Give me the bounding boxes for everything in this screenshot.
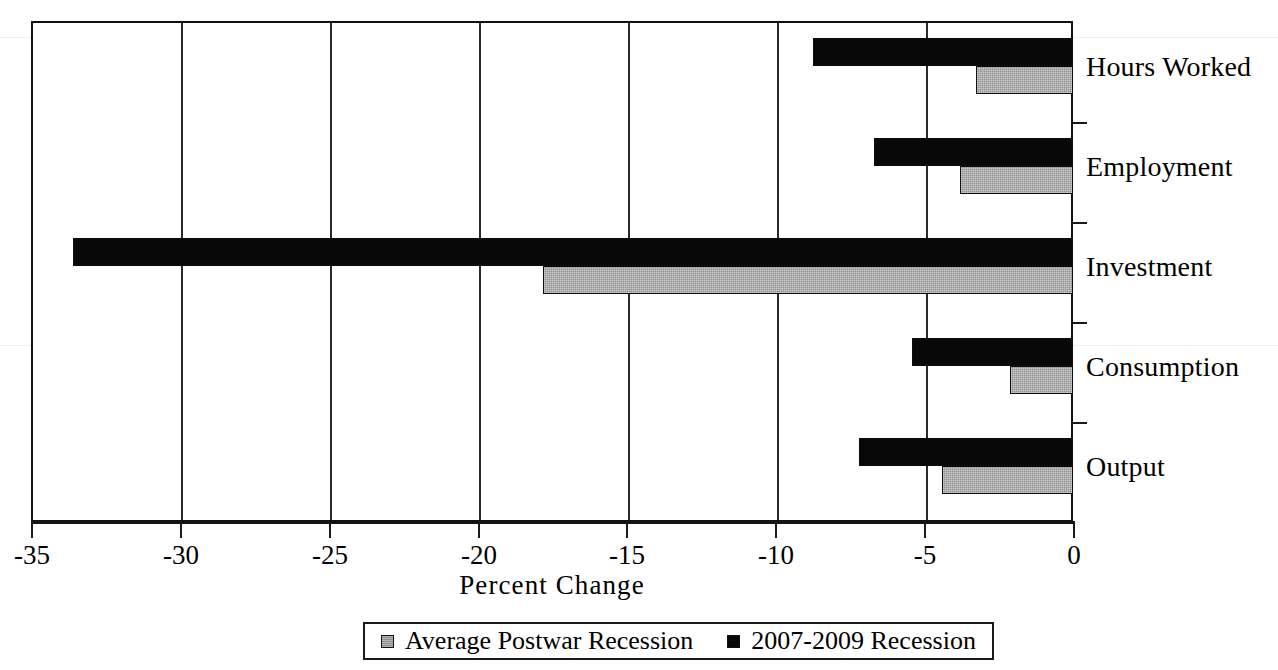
bar-consumption-average-postwar: [1010, 366, 1073, 394]
legend-swatch-gray-icon: [381, 635, 394, 648]
x-tick-label--25: -25: [285, 540, 375, 570]
bar-hours-worked-average-postwar: [976, 66, 1073, 94]
legend-item-2007-2009-recession: 2007-2009 Recession: [727, 627, 976, 655]
x-tick-label--30: -30: [136, 540, 226, 570]
x-tick--10: [775, 522, 777, 538]
bars-layer: [31, 21, 1073, 522]
bar-consumption-2007-2009: [912, 338, 1073, 366]
legend-item-average-postwar-recession: Average Postwar Recession: [381, 627, 693, 655]
x-tick--15: [626, 522, 628, 538]
legend-swatch-black-icon: [727, 635, 740, 648]
x-tick-label-0: 0: [1029, 540, 1119, 570]
x-axis-title: Percent Change: [0, 570, 1104, 601]
x-tick--25: [329, 522, 331, 538]
bar-output-average-postwar: [942, 466, 1073, 494]
legend-label-average-postwar-recession: Average Postwar Recession: [405, 627, 693, 655]
bar-investment-2007-2009: [73, 238, 1073, 266]
x-tick-label--5: -5: [880, 540, 970, 570]
x-tick-label--20: -20: [434, 540, 524, 570]
bar-employment-average-postwar: [960, 166, 1073, 194]
x-tick-label--10: -10: [731, 540, 821, 570]
bar-hours-worked-2007-2009: [813, 38, 1074, 66]
category-tick-consumption: [1073, 422, 1087, 424]
category-tick-employment: [1073, 222, 1087, 224]
x-tick--30: [180, 522, 182, 538]
bar-investment-average-postwar: [543, 266, 1073, 294]
x-tick--20: [478, 522, 480, 538]
x-tick-0: [1073, 522, 1075, 538]
category-label-consumption: Consumption: [1086, 352, 1239, 382]
x-tick--35: [31, 522, 33, 538]
legend-label-2007-2009-recession: 2007-2009 Recession: [751, 627, 976, 655]
category-label-employment: Employment: [1086, 152, 1233, 182]
x-tick--5: [924, 522, 926, 538]
x-tick-label--15: -15: [582, 540, 672, 570]
category-label-investment: Investment: [1086, 252, 1212, 282]
category-tick-investment: [1073, 322, 1087, 324]
bar-employment-2007-2009: [874, 138, 1073, 166]
bar-chart: Hours Worked Employment Investment Consu…: [0, 0, 1278, 670]
x-tick-label--35: -35: [0, 540, 77, 570]
category-label-hours-worked: Hours Worked: [1086, 52, 1251, 82]
x-axis-line: [31, 521, 1075, 524]
chart-legend: Average Postwar Recession 2007-2009 Rece…: [363, 622, 994, 660]
category-label-output: Output: [1086, 452, 1165, 482]
category-tick-hours-worked: [1073, 122, 1087, 124]
bar-output-2007-2009: [859, 438, 1073, 466]
